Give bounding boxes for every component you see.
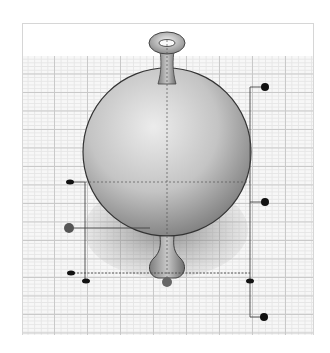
callout-dot-left-lower [67, 271, 75, 276]
callout-dot-mid-right [261, 198, 269, 206]
flask-illustration [0, 0, 330, 353]
callout-dot-left-base [82, 279, 90, 284]
flask-neck-top [158, 50, 176, 84]
callout-dot-bottom-center [162, 277, 172, 287]
callout-dot-top-right [261, 83, 269, 91]
callout-dot-left-upper [66, 180, 74, 185]
callout-dot-bottom-right [260, 313, 268, 321]
callout-dot-right-base [246, 279, 254, 284]
diagram-canvas [0, 0, 330, 353]
callout-dot-left-center [64, 223, 74, 233]
